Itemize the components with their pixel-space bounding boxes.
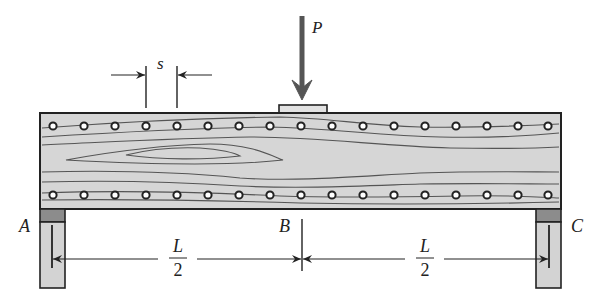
span-right-denominator: 2	[421, 260, 430, 280]
span-right-numerator: L	[419, 236, 430, 256]
midpoint-label: B	[279, 216, 290, 236]
spacing-label: s	[157, 54, 164, 73]
support-c	[536, 209, 561, 288]
load-label: P	[311, 18, 322, 37]
span-label-right: L 2	[416, 236, 434, 280]
span-left-denominator: 2	[174, 260, 183, 280]
support-a-label: A	[18, 216, 31, 236]
span-label-left: L 2	[169, 236, 187, 280]
support-a	[40, 209, 65, 288]
point-load-arrow	[292, 16, 312, 100]
span-left-numerator: L	[172, 236, 183, 256]
support-c-label: C	[571, 216, 584, 236]
beam-diagram: P s	[0, 0, 592, 301]
